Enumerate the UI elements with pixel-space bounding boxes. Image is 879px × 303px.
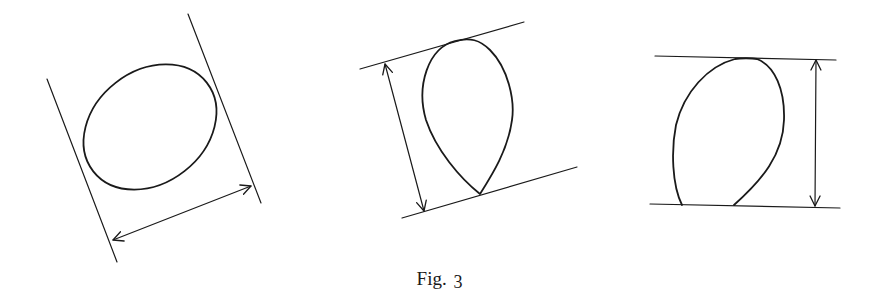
parallel-line-bottom — [650, 204, 840, 208]
caption-number: 3 — [453, 272, 462, 292]
ellipse-shape — [59, 39, 241, 216]
figure-egg — [650, 56, 840, 208]
caption-label: Fig. — [417, 268, 447, 289]
tangent-line-right — [188, 14, 261, 203]
width-arrow — [815, 60, 816, 206]
width-arrow — [113, 186, 251, 240]
figure-diagram — [0, 0, 879, 303]
egg-shape — [673, 58, 784, 205]
parallel-line-bottom — [402, 167, 577, 218]
tangent-line-left — [47, 79, 117, 262]
width-arrow — [385, 64, 424, 211]
figure-teardrop — [360, 22, 577, 218]
figure-caption: Fig. 3 — [0, 268, 879, 290]
figure-ellipse — [47, 14, 261, 262]
teardrop-shape — [423, 39, 513, 194]
